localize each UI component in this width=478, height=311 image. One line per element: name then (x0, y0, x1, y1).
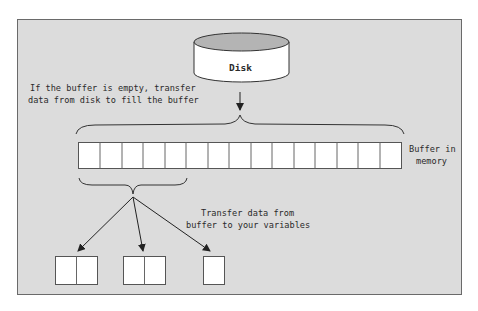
disk-label: Disk (229, 62, 252, 74)
diagram: Disk If the buffer is empty, transfer da… (0, 0, 478, 311)
buffer-label-line2: memory (416, 155, 447, 167)
fill-note-line2: data from disk to fill the buffer (28, 94, 199, 106)
selection-brace (79, 178, 187, 194)
variable-1 (56, 257, 98, 285)
variable-3 (204, 257, 225, 285)
buffer-label-line1: Buffer in (409, 143, 456, 155)
fill-note-line1: If the buffer is empty, transfer (30, 82, 196, 94)
disk-icon (194, 33, 289, 82)
buffer-in-memory (79, 143, 402, 169)
diagram-graphics (0, 0, 478, 311)
transfer-note-line2: buffer to your variables (186, 219, 310, 231)
variable-2 (124, 257, 166, 285)
transfer-note-line1: Transfer data from (201, 207, 294, 219)
buffer-brace (76, 115, 404, 134)
